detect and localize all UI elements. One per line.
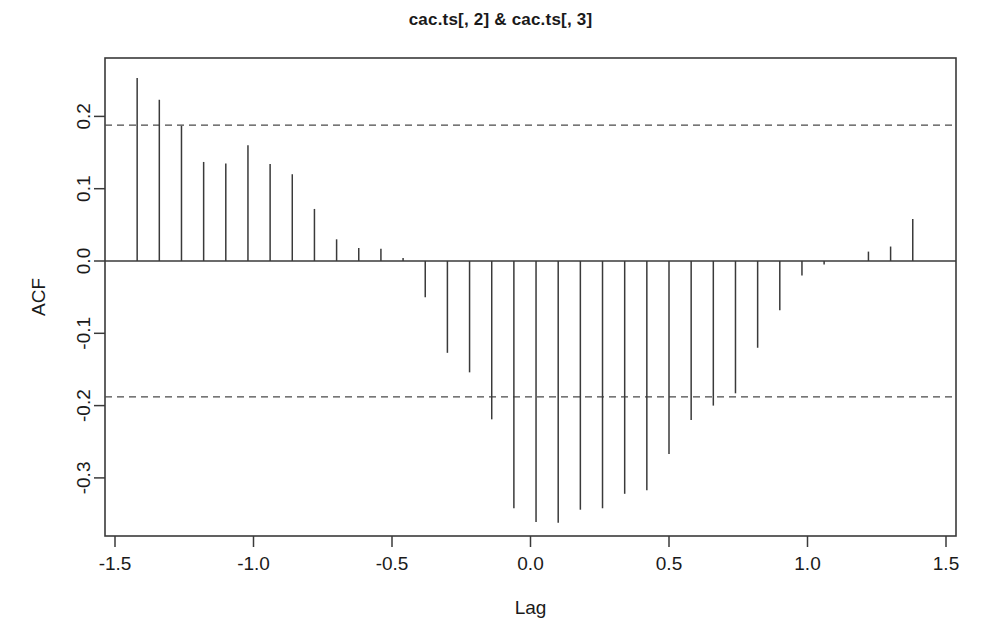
x-tick-label: 0.5 <box>656 553 682 574</box>
acf-plot-container: cac.ts[, 2] & cac.ts[, 3] -1.5-1.0-0.50.… <box>0 0 1001 637</box>
plot-frame <box>105 58 956 536</box>
x-tick-label: 0.0 <box>517 553 543 574</box>
acf-chart: -1.5-1.0-0.50.00.51.01.50.20.10.0-0.1-0.… <box>0 0 1001 637</box>
y-tick-label: 0.2 <box>73 103 94 129</box>
y-tick-label: 0.1 <box>73 175 94 201</box>
x-tick-label: 1.5 <box>933 553 959 574</box>
x-tick-label: -1.5 <box>99 553 132 574</box>
x-tick-label: 1.0 <box>794 553 820 574</box>
y-tick-label: -0.2 <box>73 389 94 422</box>
x-tick-label: -0.5 <box>376 553 409 574</box>
y-tick-label: -0.3 <box>73 462 94 495</box>
y-tick-label: -0.1 <box>73 317 94 350</box>
x-axis-label: Lag <box>515 597 547 618</box>
y-tick-label: 0.0 <box>73 248 94 274</box>
y-axis-label: ACF <box>28 278 49 316</box>
x-tick-label: -1.0 <box>237 553 270 574</box>
